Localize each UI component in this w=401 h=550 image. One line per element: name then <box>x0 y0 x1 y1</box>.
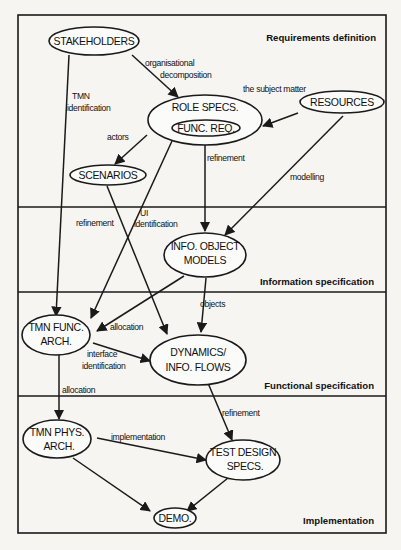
edge-test-design-to-demo <box>187 478 228 511</box>
edge-label-tmn: TMN <box>72 91 90 101</box>
diagram-page: Requirements definition Information spec… <box>0 0 401 550</box>
node-tmn-phys-arch-label-1: TMN PHYS. <box>30 426 84 438</box>
edge-label-identification: identification <box>67 103 111 113</box>
edge-label-ui: UI <box>140 208 148 218</box>
edge-label-interface: interface <box>87 349 118 359</box>
edge-label-implementation: implementation <box>111 432 166 442</box>
node-func-req-label: FUNC. REQ. <box>177 122 235 134</box>
node-scenarios[interactable]: SCENARIOS <box>70 165 146 185</box>
node-tmn-func-arch[interactable]: TMN FUNC. ARCH. <box>22 315 90 355</box>
band-label-implementation: Implementation <box>303 515 374 526</box>
edge-label-decomposition: decomposition <box>160 70 212 80</box>
edge-label-actors: actors <box>107 132 129 142</box>
node-tmn-phys-arch[interactable]: TMN PHYS. ARCH. <box>23 420 91 458</box>
edge-label-objects: objects <box>200 299 225 309</box>
edge-label-organisational: organisational <box>145 58 195 68</box>
node-resources[interactable]: RESOURCES <box>300 91 384 113</box>
node-tmn-func-arch-label-2: ARCH. <box>40 335 71 347</box>
edge-label-refinement-scenarios: refinement <box>76 218 115 228</box>
edge-label-allocation-phys: allocation <box>62 385 96 395</box>
edge-scenarios-to-dynamics <box>107 186 167 334</box>
node-info-object-models[interactable]: INFO. OBJECT MODELS <box>164 233 246 277</box>
node-scenarios-label: SCENARIOS <box>78 169 137 181</box>
node-info-object-models-label-1: INFO. OBJECT <box>171 240 241 252</box>
node-resources-label: RESOURCES <box>310 96 374 108</box>
band-label-requirements: Requirements definition <box>266 32 376 43</box>
node-stakeholders[interactable]: STAKEHOLDERS <box>49 27 139 55</box>
edge-tmn-phys-arch-to-demo <box>73 458 150 511</box>
node-dynamics-info-flows[interactable]: DYNAMICS/ INFO. FLOWS <box>150 335 246 385</box>
node-dynamics-info-flows-label-2: INFO. FLOWS <box>166 361 231 373</box>
node-stakeholders-label: STAKEHOLDERS <box>54 35 135 47</box>
edge-stakeholders-to-tmn-func-arch <box>56 55 69 316</box>
band-label-information: Information specification <box>260 276 374 287</box>
edge-label-refinement-test: refinement <box>222 408 261 418</box>
node-func-req[interactable]: FUNC. REQ. <box>172 120 240 136</box>
edge-label-refinement-role: refinement <box>207 153 246 163</box>
node-test-design-specs[interactable]: TEST DESIGN SPECS. <box>206 440 280 480</box>
edge-resources-to-role-specs <box>263 113 298 126</box>
node-test-design-specs-label-2: SPECS. <box>227 460 264 472</box>
edge-label-ui-identification: identification <box>134 219 178 229</box>
node-tmn-phys-arch-label-2: ARCH. <box>43 440 74 452</box>
node-info-object-models-label-2: MODELS <box>184 254 227 266</box>
node-role-specs-label: ROLE SPECS. <box>172 101 239 113</box>
edge-label-allocation-info: allocation <box>110 322 144 332</box>
edge-label-interface-identification: identification <box>82 361 126 371</box>
node-demo-label: DEMO. <box>159 512 192 524</box>
node-tmn-func-arch-label-1: TMN FUNC. <box>28 321 83 333</box>
node-demo[interactable]: DEMO. <box>154 508 196 528</box>
process-diagram: Requirements definition Information spec… <box>0 0 401 550</box>
edge-label-modelling: modelling <box>290 172 325 182</box>
node-dynamics-info-flows-label-1: DYNAMICS/ <box>170 346 226 358</box>
edge-label-the-subject-matter: the subject matter <box>243 84 306 94</box>
node-test-design-specs-label-1: TEST DESIGN <box>210 446 277 458</box>
band-label-functional: Functional specification <box>264 380 374 391</box>
